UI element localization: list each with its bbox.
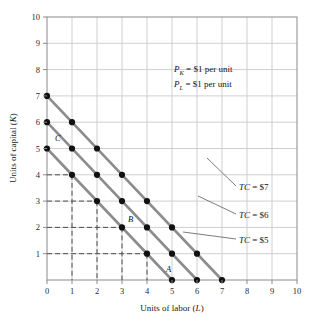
point-label-a: A	[165, 264, 172, 274]
data-point-marker	[94, 198, 100, 204]
x-axis-ticks	[47, 280, 297, 284]
y-axis-tick-label: 5	[36, 144, 40, 154]
y-axis-tick-label: 8	[36, 65, 40, 75]
x-axis-tick-label: 4	[145, 286, 150, 296]
y-axis-tick-label: 2	[36, 222, 40, 232]
isocost-label-tc6: TC = $6	[239, 210, 269, 220]
x-axis-tick-label: 10	[293, 286, 302, 296]
data-point-marker	[69, 172, 75, 178]
data-point-marker	[94, 172, 100, 178]
y-axis-tick-labels: 12345678910	[32, 12, 41, 259]
x-axis-tick-label: 7	[220, 286, 224, 296]
x-axis-tick-label: 3	[120, 286, 124, 296]
x-axis-tick-label: 5	[170, 286, 174, 296]
point-label-b: B	[128, 214, 133, 224]
data-point-marker	[144, 198, 150, 204]
data-point-marker	[119, 224, 125, 230]
x-axis-title: Units of labor (L)	[140, 303, 203, 313]
x-axis-tick-label: 1	[70, 286, 74, 296]
point-label-c: C	[55, 133, 61, 143]
x-axis-tick-label: 6	[195, 286, 199, 296]
isocost-chart-figure: 012345678910 12345678910 Units of labor …	[0, 0, 321, 322]
y-axis-tick-label: 1	[36, 249, 40, 259]
y-axis-tick-label: 6	[36, 117, 40, 127]
y-axis-ticks	[43, 17, 47, 254]
y-axis-tick-label: 4	[36, 170, 41, 180]
x-axis-tick-label: 2	[95, 286, 99, 296]
data-point-marker	[94, 145, 100, 151]
x-axis-tick-label: 0	[45, 286, 49, 296]
data-point-marker	[144, 251, 150, 257]
data-point-marker	[169, 251, 175, 257]
isocost-label-tc5: TC = $5	[239, 235, 269, 245]
data-point-marker	[169, 224, 175, 230]
x-axis-tick-label: 8	[245, 286, 249, 296]
data-point-marker	[119, 198, 125, 204]
isocost-label-tc7: TC = $7	[239, 182, 269, 192]
isocost-chart-svg: 012345678910 12345678910 Units of labor …	[0, 0, 321, 322]
data-point-marker	[69, 119, 75, 125]
x-axis-tick-label: 9	[270, 286, 274, 296]
x-axis-tick-labels: 012345678910	[45, 286, 301, 296]
y-axis-tick-label: 10	[32, 12, 41, 22]
y-axis-tick-label: 7	[36, 91, 40, 101]
y-axis-tick-label: 9	[36, 38, 40, 48]
y-axis-title: Units of capital (K)	[8, 113, 18, 183]
data-point-marker	[119, 172, 125, 178]
y-axis-tick-label: 3	[36, 196, 40, 206]
data-point-marker	[144, 224, 150, 230]
data-point-marker	[194, 251, 200, 257]
data-point-marker	[69, 145, 75, 151]
